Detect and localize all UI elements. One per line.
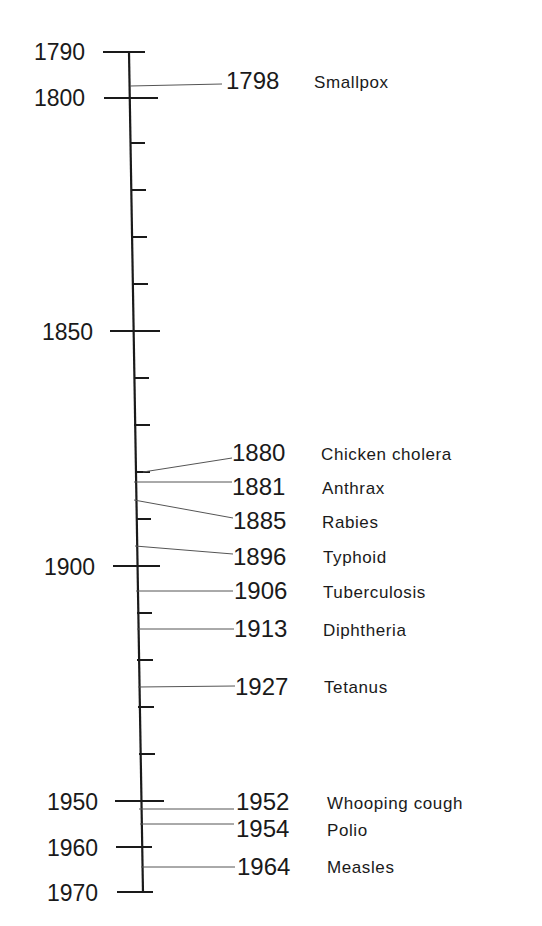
axis-label-1850: 1850 — [42, 319, 93, 345]
axis-label-1960: 1960 — [47, 835, 98, 861]
event-year: 1913 — [234, 615, 287, 642]
axis-label-1950: 1950 — [47, 789, 98, 815]
event-tetanus: 1927 Tetanus — [235, 673, 388, 700]
axis-label-1800: 1800 — [34, 85, 85, 111]
event-rabies: 1885 Rabies — [233, 507, 379, 534]
major-ticks — [103, 52, 164, 892]
event-typhoid: 1896 Typhoid — [233, 543, 387, 570]
event-disease: Polio — [327, 821, 368, 840]
event-disease: Typhoid — [323, 548, 387, 567]
minor-ticks — [130, 143, 155, 754]
event-tuberculosis: 1906 Tuberculosis — [234, 577, 426, 604]
event-chicken-cholera: 1880 Chicken cholera — [232, 439, 452, 466]
event-year: 1906 — [234, 577, 287, 604]
event-disease: Measles — [327, 858, 395, 877]
event-year: 1964 — [237, 853, 290, 880]
event-disease: Smallpox — [314, 73, 389, 92]
event-disease: Anthrax — [322, 479, 385, 498]
event-disease: Tuberculosis — [323, 583, 426, 602]
axis-label-1790: 1790 — [34, 39, 85, 65]
event-year: 1881 — [232, 473, 285, 500]
event-year: 1927 — [235, 673, 288, 700]
event-year: 1952 — [236, 788, 289, 815]
event-whooping-cough: 1952 Whooping cough — [236, 788, 463, 815]
vaccine-timeline: 1790 1800 1850 1900 1950 1960 1970 1798 … — [0, 0, 542, 926]
event-measles: 1964 Measles — [237, 853, 395, 880]
event-year: 1954 — [236, 815, 289, 842]
event-disease: Rabies — [322, 513, 379, 532]
event-year: 1885 — [233, 507, 286, 534]
axis-label-1900: 1900 — [44, 554, 95, 580]
event-diphtheria: 1913 Diphtheria — [234, 615, 407, 642]
axis-label-1970: 1970 — [47, 880, 98, 906]
leader-lines — [130, 84, 235, 867]
event-disease: Chicken cholera — [321, 445, 452, 464]
event-disease: Tetanus — [324, 678, 388, 697]
event-disease: Whooping cough — [327, 794, 463, 813]
event-anthrax: 1881 Anthrax — [232, 473, 385, 500]
event-disease: Diphtheria — [323, 621, 407, 640]
event-year: 1880 — [232, 439, 285, 466]
event-smallpox: 1798 Smallpox — [226, 67, 389, 94]
event-polio: 1954 Polio — [236, 815, 368, 842]
event-year: 1896 — [233, 543, 286, 570]
event-year: 1798 — [226, 67, 279, 94]
